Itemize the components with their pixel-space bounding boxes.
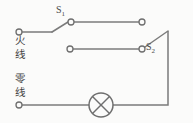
switch-two-contact-terminal[interactable] [139,46,145,52]
live-wire-label-char-two: 线 [12,47,28,61]
neutral-wire-label: 零 线 [12,71,28,99]
switch-one-upper-contact-terminal[interactable] [68,19,74,25]
neutral-wire-label-char-two: 线 [12,85,28,99]
switch-one-label: S1 [56,5,65,18]
neutral-wire-terminal[interactable] [16,102,22,108]
switch-one-blade[interactable] [52,22,68,32]
circuit-schematic-canvas [0,0,193,123]
switch-two-label: S2 [146,42,155,55]
switch-one-label-subscript: 1 [62,10,66,18]
switch-two-label-subscript: 2 [152,47,156,55]
live-wire-label: 火 线 [12,33,28,61]
upper-traveler-right-terminal[interactable] [139,19,145,25]
live-wire-label-char-one: 火 [12,33,28,47]
circuit-diagram: S1 S2 火 线 零 线 [0,0,193,123]
neutral-wire-label-char-one: 零 [12,71,28,85]
lower-traveler-left-terminal[interactable] [67,46,73,52]
return-conductor [113,31,168,105]
